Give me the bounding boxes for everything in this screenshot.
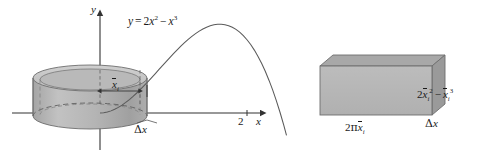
y-axis-label: y (91, 4, 96, 15)
curve-eq-pow1: 2 (154, 14, 158, 22)
curve-eq-pow2: 3 (174, 14, 178, 22)
slab-height-var2: x (443, 89, 448, 100)
shell-inner-ellipse (40, 69, 140, 90)
left-thickness-var: x (142, 123, 147, 135)
right-thickness-delta: Δ (425, 117, 433, 130)
slab-height-pow2: 3 (450, 87, 453, 94)
right-thickness-label: Δx (425, 118, 438, 129)
slab-height-sub1: i (427, 95, 429, 102)
curve-eq-equals: = (135, 15, 142, 27)
radius-label: xi (112, 79, 119, 90)
slab-width-var: x (358, 122, 363, 133)
x-tick-label-2: 2 (238, 116, 244, 127)
rectangular-slab (320, 55, 445, 115)
slab-height-label: 2xi2−xi3 (417, 89, 453, 100)
shell-method-figure: y 2 x y=2x2−x3 xi Δx 2xi2−xi3 2πxi (0, 0, 481, 157)
slab-height-pow1: 2 (429, 87, 432, 94)
slab-height-sub2: i (448, 95, 450, 102)
slab-right-face (432, 55, 445, 115)
slab-width-pi: π (351, 121, 358, 134)
curve-eq-lhs: y (128, 15, 133, 27)
slab-width-label: 2πxi (345, 122, 365, 133)
slab-front-face (320, 66, 432, 115)
slab-height-minus: − (435, 88, 441, 100)
right-panel-graphic (300, 0, 481, 157)
left-thickness-delta: Δ (134, 123, 142, 136)
x-axis-label: x (256, 116, 261, 127)
cylindrical-shell (33, 65, 147, 129)
curve-eq-minus: − (160, 15, 167, 27)
radius-label-sub: i (117, 85, 119, 92)
slab-height-var1: x (423, 89, 428, 100)
slab-top-face (320, 55, 445, 66)
left-thickness-label: Δx (134, 124, 147, 135)
radius-label-var: x (112, 79, 117, 90)
slab-width-sub: i (363, 128, 365, 135)
right-thickness-var: x (433, 117, 438, 129)
curve-equation-label: y=2x2−x3 (128, 16, 177, 28)
